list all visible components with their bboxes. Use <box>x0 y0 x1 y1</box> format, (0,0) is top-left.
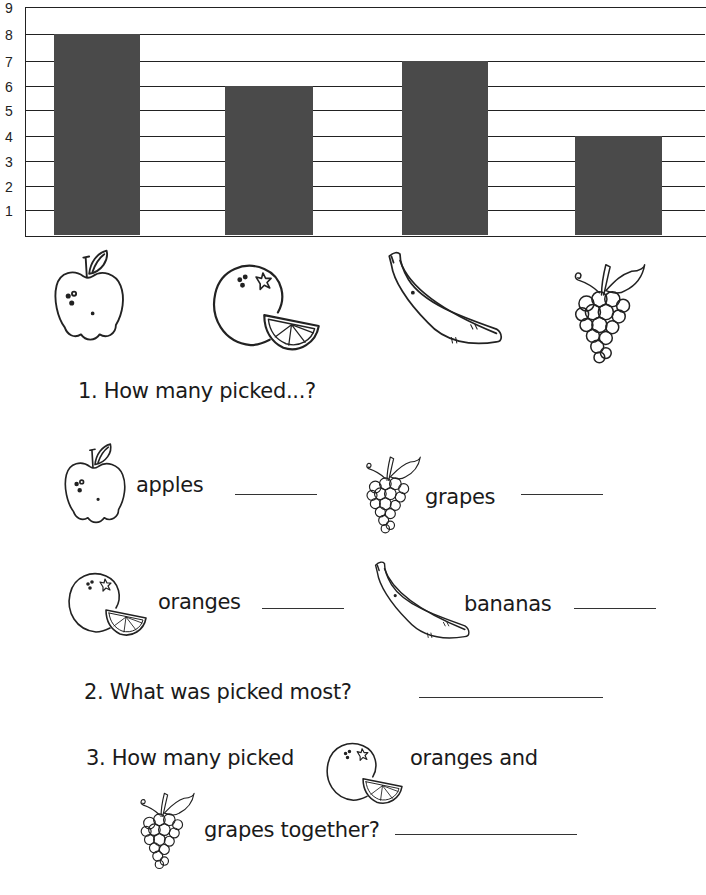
question-1-label: 1. How many picked...? <box>78 379 316 403</box>
y-tick-2: 2 <box>5 180 13 194</box>
apples-answer-blank[interactable] <box>235 494 317 495</box>
grapes-answer-blank[interactable] <box>521 494 603 495</box>
orange-icon <box>65 568 151 640</box>
y-tick-4: 4 <box>5 130 13 144</box>
bar-oranges <box>225 86 313 235</box>
y-tick-8: 8 <box>5 28 13 42</box>
bar-apples <box>54 34 140 235</box>
bananas-label: bananas <box>464 592 551 616</box>
grapes-label: grapes <box>425 485 495 509</box>
orange-icon <box>208 258 326 356</box>
y-tick-3: 3 <box>5 155 13 169</box>
y-tick-1: 1 <box>5 204 13 218</box>
apple-icon <box>48 246 128 346</box>
bar-chart: 9 8 7 6 5 4 3 2 1 <box>0 0 694 240</box>
grapes-icon <box>136 785 196 871</box>
apples-label: apples <box>136 473 203 497</box>
oranges-grapes-total-answer-blank[interactable] <box>395 834 577 835</box>
bar-bananas <box>402 61 488 235</box>
oranges-answer-blank[interactable] <box>262 608 344 609</box>
question-3-part2: oranges and <box>410 746 538 770</box>
y-tick-6: 6 <box>5 80 13 94</box>
orange-icon <box>322 738 408 808</box>
apple-icon <box>59 440 129 528</box>
grapes-icon <box>568 254 648 366</box>
question-3-part1: 3. How many picked <box>86 746 294 770</box>
banana-icon <box>385 244 505 352</box>
y-tick-7: 7 <box>5 55 13 69</box>
banana-icon <box>372 555 472 645</box>
bar-grapes <box>575 136 662 235</box>
oranges-label: oranges <box>158 590 241 614</box>
grapes-icon <box>362 447 422 537</box>
picked-most-answer-blank[interactable] <box>419 697 603 698</box>
question-3-part3: grapes together? <box>204 818 379 842</box>
bananas-answer-blank[interactable] <box>574 608 656 609</box>
question-2-label: 2. What was picked most? <box>84 680 352 704</box>
y-tick-9: 9 <box>5 1 13 15</box>
y-tick-5: 5 <box>5 104 13 118</box>
